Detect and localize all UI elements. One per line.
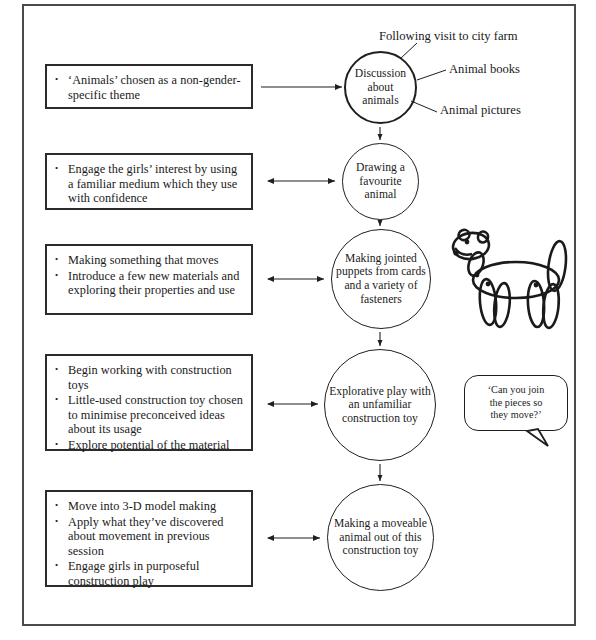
bullet-box-row-4: Begin working with construction toys Lit… [45, 354, 253, 451]
bullet-item: Explore potential of the material [53, 438, 243, 453]
annotation-city-farm: Following visit to city farm [379, 29, 518, 43]
circle-label: Drawing a favourite animal [343, 161, 418, 202]
circle-discussion-about-animals: Discussion about animals [344, 51, 417, 124]
bullet-item: Little-used construction toy chosen to m… [53, 393, 243, 437]
speech-line: the pieces so [490, 397, 543, 408]
circle-explorative-play: Explorative play with an unfamiliar cons… [324, 349, 436, 461]
circle-making-jointed-puppets: Making jointed puppets from cards and a … [331, 229, 431, 329]
bullet-item: Introduce a few new materials and explor… [53, 269, 243, 298]
bullet-box-row-3: Making something that moves Introduce a … [45, 244, 253, 315]
bullet-item: Apply what they’ve discovered about move… [53, 515, 243, 559]
speech-line: they move?’ [490, 409, 541, 420]
circle-drawing-favourite-animal: Drawing a favourite animal [342, 143, 419, 220]
bullet-item: Engage girls in purposeful construction … [53, 559, 243, 588]
speech-bubble-join-pieces: ‘Can you join the pieces so they move?’ [464, 375, 568, 431]
bullet-box-row-1: ‘Animals’ chosen as a non-gender-specifi… [45, 64, 253, 109]
bullet-box-row-5: Move into 3-D model making Apply what th… [45, 490, 253, 587]
diagram-canvas: ‘Animals’ chosen as a non-gender-specifi… [0, 0, 596, 640]
annotation-label: Animal pictures [440, 103, 521, 117]
circle-label: Making a moveable animal out of this con… [328, 517, 433, 558]
bullet-item: Begin working with construction toys [53, 363, 243, 392]
bullet-item: ‘Animals’ chosen as a non-gender-specifi… [53, 73, 243, 102]
annotation-label: Animal books [449, 62, 520, 76]
annotation-animal-pictures: Animal pictures [440, 103, 521, 117]
circle-label: Discussion about animals [346, 67, 415, 108]
bullet-item: Engage the girls’ interest by using a fa… [53, 162, 243, 206]
annotation-animal-books: Animal books [449, 62, 520, 76]
bullet-item: Move into 3-D model making [53, 499, 243, 514]
circle-label: Explorative play with an unfamiliar cons… [325, 385, 435, 426]
bullet-item: Making something that moves [53, 253, 243, 268]
bullet-box-row-2: Engage the girls’ interest by using a fa… [45, 153, 253, 210]
circle-label: Making jointed puppets from cards and a … [332, 252, 430, 306]
speech-bubble-text: ‘Can you join the pieces so they move?’ [488, 384, 545, 421]
circle-making-moveable-animal: Making a moveable animal out of this con… [327, 484, 434, 591]
annotation-label: Following visit to city farm [379, 29, 518, 43]
speech-line: ‘Can you join [488, 384, 545, 395]
